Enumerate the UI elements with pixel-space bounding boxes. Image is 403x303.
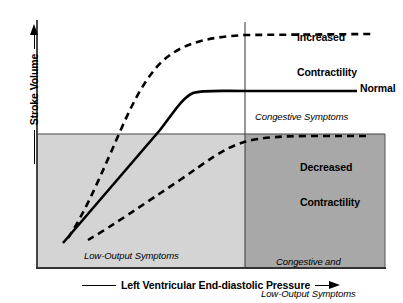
label-decreased-contractility: Decreased Contractility (300, 138, 360, 232)
y-axis-leading-rule (34, 130, 35, 164)
label-low-output-symptoms: Low-Output Symptoms (84, 251, 179, 262)
y-axis-arrow-icon (30, 24, 38, 49)
label-congestive-and-low-output-line1: Congestive and (261, 257, 356, 268)
x-axis-title: Left Ventricular End-diastolic Pressure (121, 279, 310, 291)
label-increased-contractility-line2: Contractility (297, 67, 357, 79)
y-axis-title: Stroke Volume (28, 54, 40, 125)
y-axis-arrow-stem (34, 33, 35, 49)
label-congestive-symptoms: Congestive Symptoms (255, 112, 348, 123)
x-axis-leading-rule (82, 285, 116, 286)
y-axis-title-group: Stroke Volume (24, 14, 44, 174)
x-axis-arrow-icon (315, 281, 340, 289)
label-congestive-and-low-output: Congestive and Low-Output Symptoms (261, 236, 356, 303)
chart-container: Increased Contractility Normal Congestiv… (0, 0, 403, 303)
label-decreased-contractility-line1: Decreased (300, 162, 360, 174)
x-axis-arrow-head (329, 281, 340, 289)
label-increased-contractility: Increased Contractility (297, 8, 357, 102)
x-axis-title-group: Left Ventricular End-diastolic Pressure (36, 279, 386, 291)
y-axis-arrow-head (30, 24, 38, 35)
label-increased-contractility-line1: Increased (297, 32, 357, 44)
label-normal: Normal (360, 83, 396, 95)
label-decreased-contractility-line2: Contractility (300, 197, 360, 209)
